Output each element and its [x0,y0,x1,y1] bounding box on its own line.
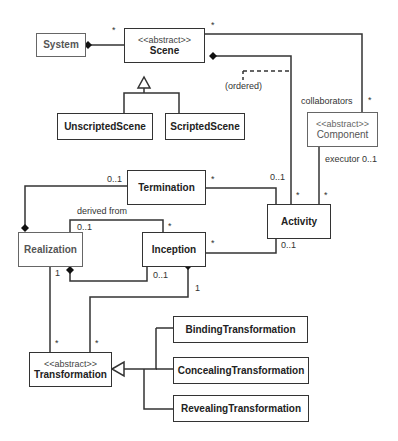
association-label-derived-from: derived from [77,206,127,216]
class-transformation[interactable]: <<abstract>> Transformation [29,352,112,387]
class-component[interactable]: <<abstract>> Component [307,112,378,147]
class-name: Termination [138,182,194,194]
constraint-label-ordered: (ordered) [225,81,262,91]
class-concealing-transformation[interactable]: ConcealingTransformation [173,357,309,384]
class-name: ScriptedScene [170,121,239,133]
class-binding-transformation[interactable]: BindingTransformation [173,316,308,343]
class-name: UnscriptedScene [64,121,146,133]
multiplicity-label: * [296,190,300,200]
multiplicity-label: * [211,238,215,248]
class-inception[interactable]: Inception [142,232,206,267]
class-system[interactable]: System [36,33,86,57]
multiplicity-label: 0..1 [77,222,92,232]
multiplicity-label: 1 [195,283,200,293]
class-name: BindingTransformation [186,324,296,336]
class-name: Scene [150,45,179,57]
class-activity[interactable]: Activity [267,204,331,239]
multiplicity-label: 0..1 [153,270,168,280]
multiplicity-label: 1 [55,268,60,278]
class-realization[interactable]: Realization [18,232,83,267]
multiplicity-label: * [95,338,99,348]
multiplicity-label: 0..1 [270,172,285,182]
class-scene[interactable]: <<abstract>> Scene [124,28,205,63]
role-label-executor: executor 0..1 [325,154,377,164]
multiplicity-label: * [324,190,328,200]
multiplicity-label: * [368,95,372,105]
multiplicity-label: * [211,20,215,30]
role-label-collaborators: collaborators [301,96,353,106]
multiplicity-label: 0..1 [107,174,122,184]
multiplicity-label: * [211,174,215,184]
class-name: Realization [24,244,77,256]
class-name: RevealingTransformation [181,403,301,415]
class-name: ConcealingTransformation [178,365,305,377]
stereotype: <<abstract>> [138,35,191,45]
multiplicity-label: * [168,221,172,231]
class-name: Transformation [34,369,107,381]
stereotype: <<abstract>> [44,359,97,369]
stereotype: <<abstract>> [316,119,369,129]
class-scripted-scene[interactable]: ScriptedScene [165,113,245,140]
multiplicity-label: 0..1 [281,240,296,250]
class-name: System [43,39,79,51]
multiplicity-label: * [55,338,59,348]
class-name: Activity [281,216,317,228]
class-termination[interactable]: Termination [127,170,206,205]
class-name: Inception [152,244,196,256]
class-unscripted-scene[interactable]: UnscriptedScene [57,113,153,140]
class-name: Component [317,129,369,141]
multiplicity-label: * [112,25,116,35]
class-revealing-transformation[interactable]: RevealingTransformation [173,395,309,422]
